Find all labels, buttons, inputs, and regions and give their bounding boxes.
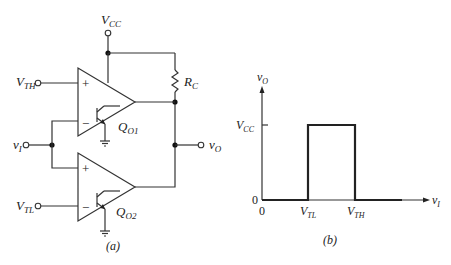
vth-terminal [35,80,41,86]
transistor-qo1-icon [97,106,120,136]
window-comparator-figure: VCC RC vO + − VTH [0,0,451,265]
ground-1-icon [100,136,110,146]
x-axis-arrow-icon [423,198,430,203]
x-tick-vtl: VTL [300,204,317,220]
vcc-terminal [105,30,111,36]
caption-b: (b) [323,233,337,247]
x-axis-label: vI [432,193,440,209]
vtl-terminal [35,203,41,209]
rc-label: RC [183,74,199,91]
transfer-curve [262,125,402,200]
vth-label: VTH [16,74,36,91]
vcc-label: VCC [101,12,122,29]
y-tick-zero: 0 [252,193,258,207]
x-tick-vth: VTH [347,204,366,220]
comparator-2-output-wire [135,185,175,187]
vi-label: vI [13,137,23,154]
circuit-diagram: VCC RC vO + − VTH [13,12,222,253]
comparator-2-minus: − [82,200,89,215]
y-axis-arrow-icon [260,86,265,93]
x-tick-zero: 0 [259,204,265,218]
qo1-label: QO1 [118,119,138,136]
comparator-2-plus: + [82,161,89,176]
vo-terminal [198,142,204,148]
ground-2-icon [100,226,110,236]
caption-a: (a) [106,239,120,253]
resistor-rc-icon [172,70,178,92]
vtl-label: VTL [16,198,34,215]
vi-terminal [23,142,29,148]
comparator-1-plus: + [82,76,89,91]
y-axis-label: vO [257,70,268,86]
vi-to-comparator-2-plus-wire [52,145,78,168]
transfer-characteristic-plot: vO vI VCC 0 0 VTL VTH (b) [236,70,440,247]
comparator-1-minus: − [82,116,89,131]
y-tick-vcc: VCC [236,118,255,134]
vi-to-comparator-1-minus-wire [52,121,78,145]
qo2-label: QO2 [116,204,137,221]
vo-label: vO [209,137,222,154]
